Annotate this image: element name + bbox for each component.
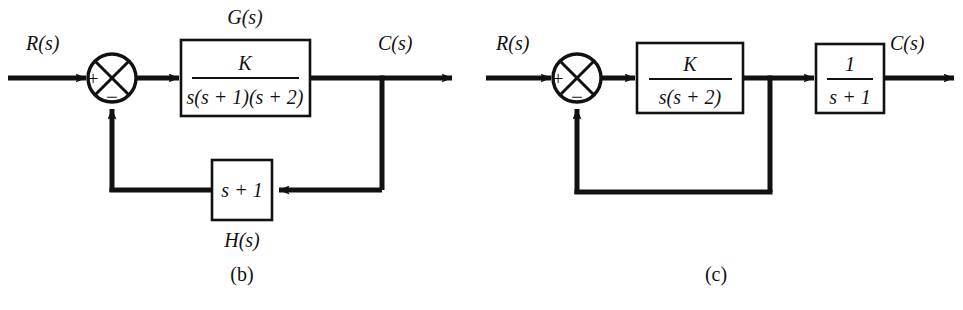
panel-c-block1-numerator: K xyxy=(682,53,698,75)
panel-b-plus-sign: + xyxy=(88,68,99,89)
panel-b-h-expression: s + 1 xyxy=(221,179,262,201)
panel-b-g-denominator: s(s + 1)(s + 2) xyxy=(187,86,304,109)
panel-c: R(s) + − K s(s + 2) xyxy=(486,32,954,286)
panel-b-input-label: R(s) xyxy=(25,32,60,55)
panel-c-plus-sign: + xyxy=(553,68,564,89)
panel-c-block2-numerator: 1 xyxy=(845,53,855,75)
panel-b-caption: (b) xyxy=(230,263,253,286)
panel-b: R(s) + − G(s) K s(s + 1)(s + 2) xyxy=(8,6,452,286)
panel-c-block1-denominator: s(s + 2) xyxy=(659,86,722,109)
panel-b-g-numerator: K xyxy=(237,52,253,74)
panel-b-minus-sign: − xyxy=(106,85,118,109)
panel-b-g-label: G(s) xyxy=(227,6,263,29)
figure-root: R(s) + − G(s) K s(s + 1)(s + 2) xyxy=(0,0,963,310)
panel-c-caption: (c) xyxy=(705,263,727,286)
panel-b-output-label: C(s) xyxy=(378,32,413,55)
panel-c-forward-block-2: 1 s + 1 xyxy=(816,44,884,113)
panel-c-input-label: R(s) xyxy=(495,32,530,55)
block-diagram-canvas: R(s) + − G(s) K s(s + 1)(s + 2) xyxy=(0,0,963,310)
panel-b-summing-junction: + − xyxy=(88,54,136,109)
panel-c-output-label: C(s) xyxy=(890,32,925,55)
panel-b-h-label: H(s) xyxy=(223,229,260,252)
panel-c-forward-block-1: K s(s + 2) xyxy=(637,43,743,113)
panel-b-forward-block: G(s) K s(s + 1)(s + 2) xyxy=(181,6,310,116)
panel-c-block2-denominator: s + 1 xyxy=(829,86,870,108)
panel-b-feedback-block: s + 1 H(s) xyxy=(212,160,272,252)
panel-c-minus-sign: − xyxy=(571,85,583,109)
panel-c-summing-junction: + − xyxy=(553,54,601,109)
